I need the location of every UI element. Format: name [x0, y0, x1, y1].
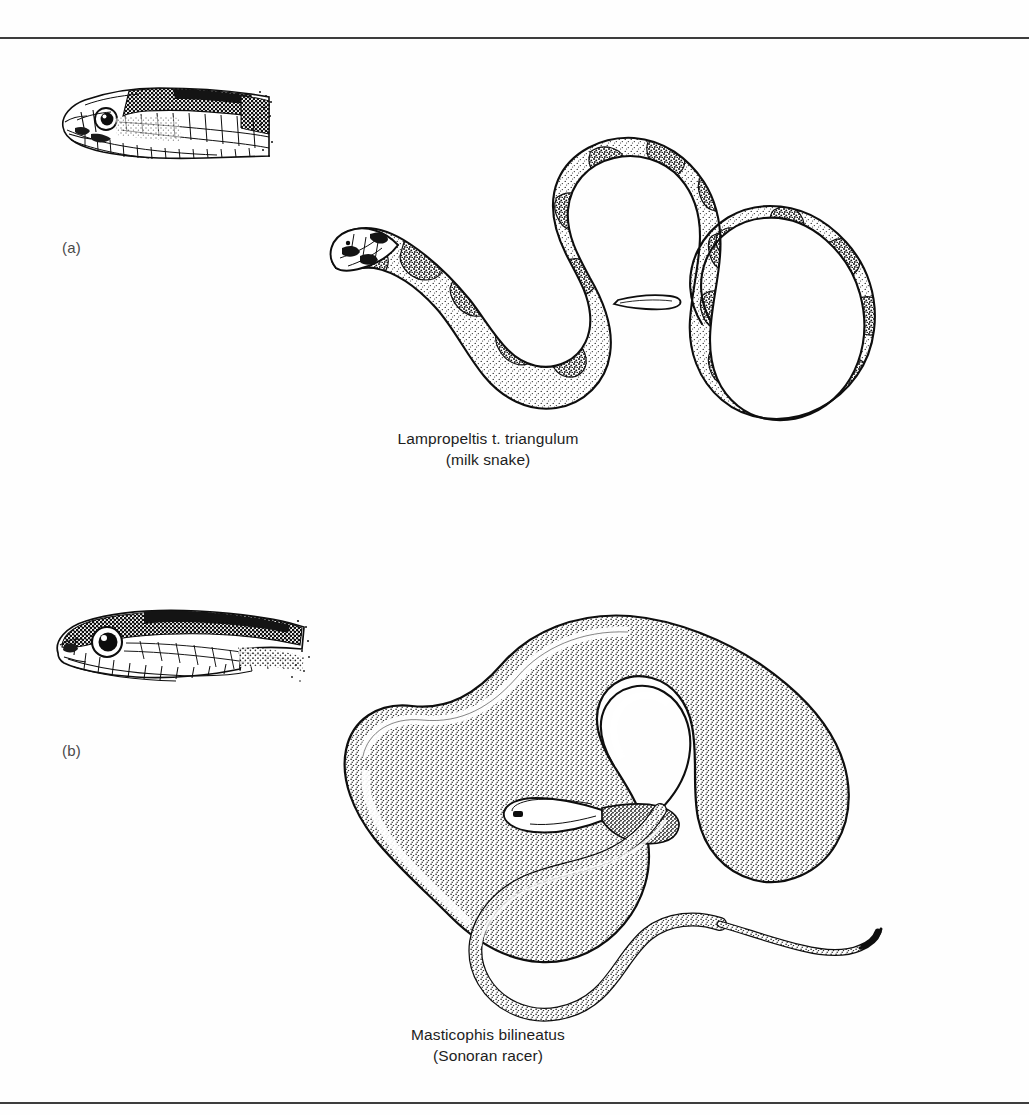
caption-a: Lampropeltis t. triangulum (milk snake) — [388, 429, 588, 471]
caption-a-scientific-name: Lampropeltis t. triangulum — [388, 429, 588, 450]
milk-snake-head-illustration — [55, 72, 275, 172]
milk-snake-body-illustration — [318, 78, 1018, 478]
sonoran-racer-body-illustration — [330, 598, 910, 1038]
figure-plate: (a) — [0, 0, 1029, 1115]
top-rule — [0, 37, 1029, 39]
panel-label-a: (a) — [62, 240, 81, 255]
caption-b-common-name: (Sonoran racer) — [388, 1046, 588, 1067]
panel-label-b: (b) — [62, 743, 81, 758]
caption-b-scientific-name: Masticophis bilineatus — [388, 1025, 588, 1046]
sonoran-racer-head-illustration — [52, 597, 314, 695]
bottom-rule — [0, 1102, 1029, 1104]
caption-a-common-name: (milk snake) — [388, 450, 588, 471]
caption-b: Masticophis bilineatus (Sonoran racer) — [388, 1025, 588, 1067]
